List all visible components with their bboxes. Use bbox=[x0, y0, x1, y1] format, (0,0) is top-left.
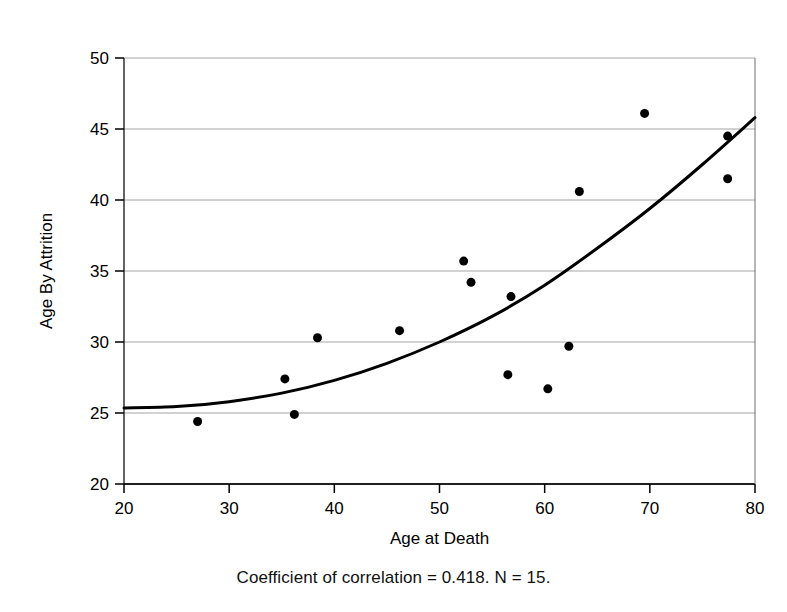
y-axis-ticks: 20253035404550 bbox=[90, 49, 124, 494]
data-point bbox=[280, 374, 289, 383]
y-axis-title: Age By Attrition bbox=[37, 213, 56, 329]
y-tick-label: 35 bbox=[90, 262, 109, 281]
x-tick-label: 70 bbox=[640, 499, 659, 518]
data-point bbox=[723, 132, 732, 141]
x-axis-title: Age at Death bbox=[390, 529, 489, 548]
y-tick-label: 45 bbox=[90, 120, 109, 139]
x-tick-label: 40 bbox=[325, 499, 344, 518]
data-point bbox=[575, 187, 584, 196]
y-tick-label: 40 bbox=[90, 191, 109, 210]
data-point bbox=[640, 109, 649, 118]
y-tick-label: 20 bbox=[90, 475, 109, 494]
x-tick-label: 20 bbox=[115, 499, 134, 518]
trend-curve bbox=[124, 118, 755, 408]
y-tick-label: 50 bbox=[90, 49, 109, 68]
chart-canvas: 2025303540455020304050607080Age at Death… bbox=[0, 0, 787, 612]
data-point bbox=[313, 333, 322, 342]
x-tick-label: 80 bbox=[746, 499, 765, 518]
data-point bbox=[395, 326, 404, 335]
x-tick-label: 60 bbox=[535, 499, 554, 518]
gridlines bbox=[124, 58, 755, 484]
data-points bbox=[193, 109, 732, 426]
data-point bbox=[543, 384, 552, 393]
data-point bbox=[193, 417, 202, 426]
data-point bbox=[467, 278, 476, 287]
y-tick-label: 30 bbox=[90, 333, 109, 352]
data-point bbox=[507, 292, 516, 301]
data-point bbox=[459, 257, 468, 266]
chart-caption: Coefficient of correlation = 0.418. N = … bbox=[0, 568, 787, 588]
scatter-plot-figure: 2025303540455020304050607080Age at Death… bbox=[0, 0, 787, 612]
data-point bbox=[290, 410, 299, 419]
x-axis-ticks: 20304050607080 bbox=[115, 484, 765, 518]
data-point bbox=[564, 342, 573, 351]
y-tick-label: 25 bbox=[90, 404, 109, 423]
x-tick-label: 30 bbox=[220, 499, 239, 518]
data-point bbox=[723, 174, 732, 183]
data-point bbox=[503, 370, 512, 379]
x-tick-label: 50 bbox=[430, 499, 449, 518]
